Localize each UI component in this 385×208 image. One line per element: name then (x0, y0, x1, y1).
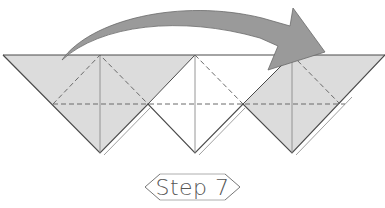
origami-diagram (0, 0, 385, 172)
step-label-text: Step 7 (0, 175, 385, 200)
step-label: Step 7 (0, 172, 385, 202)
